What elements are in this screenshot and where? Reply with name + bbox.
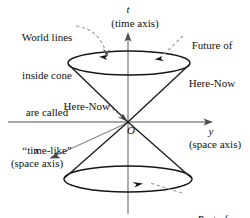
annotation-future-of-here-now: Future of Here-Now bbox=[176, 14, 248, 114]
leader-herenow bbox=[108, 105, 122, 117]
annotation-worldlines-line-4: “time-like” bbox=[4, 144, 90, 157]
annotation-worldlines-line-1: World lines bbox=[4, 31, 90, 44]
x-axis-caption: (space axis) bbox=[2, 157, 72, 170]
annotation-future-line-2: Here-Now bbox=[176, 77, 248, 90]
y-axis-caption: (space axis) bbox=[182, 138, 248, 151]
annotation-future-line-1: Future of bbox=[176, 39, 248, 52]
annotation-worldlines-line-2: inside cone bbox=[4, 69, 90, 82]
annotation-worldlines: World lines inside cone are called “time… bbox=[4, 6, 90, 181]
past-rim-arrowhead bbox=[133, 182, 144, 188]
annotation-past-line-1: Past of bbox=[178, 213, 248, 218]
lightcone-diagram: World lines inside cone are called “time… bbox=[0, 0, 250, 218]
x-axis-symbol: x bbox=[29, 144, 45, 157]
annotation-here-now: Here-Now bbox=[46, 100, 110, 113]
annotation-past-of-here-now: Past of Here-Now bbox=[178, 188, 248, 218]
time-axis-symbol: t bbox=[120, 3, 136, 16]
time-axis-caption: (time axis) bbox=[102, 17, 168, 30]
y-axis-symbol: y bbox=[203, 125, 219, 138]
leader-herenow-arrowhead bbox=[117, 114, 127, 122]
origin-label: O bbox=[124, 124, 138, 137]
future-rim-arrowhead-right bbox=[155, 56, 165, 61]
